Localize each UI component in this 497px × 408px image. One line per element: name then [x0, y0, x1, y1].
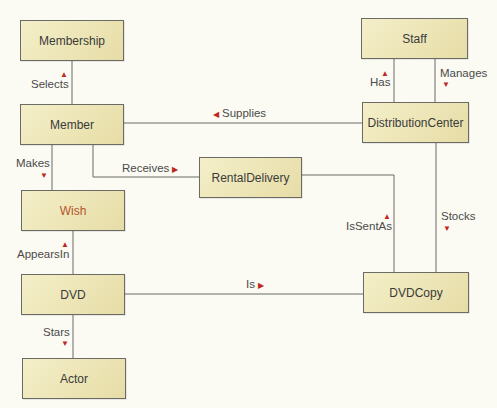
relationship-label-stars: Stars	[43, 326, 70, 338]
entity-label: Wish	[60, 204, 87, 218]
entity-label: Staff	[402, 32, 426, 46]
relationship-label-stocks: Stocks	[441, 210, 476, 222]
entity-rentaldelivery[interactable]: RentalDelivery	[199, 157, 302, 198]
relationship-label-has: Has	[370, 76, 390, 88]
entity-membership[interactable]: Membership	[20, 20, 124, 61]
arrow-down-icon: ▼	[442, 81, 450, 89]
entity-member[interactable]: Member	[20, 104, 124, 145]
relationship-label-appearsin: AppearsIn	[17, 248, 69, 260]
entity-label: Actor	[60, 372, 88, 386]
entity-staff[interactable]: Staff	[361, 18, 468, 59]
arrow-left-icon: ◀	[213, 111, 219, 119]
entity-label: DVD	[60, 288, 85, 302]
entity-label: Membership	[39, 34, 105, 48]
relationship-label-supplies: Supplies	[222, 107, 266, 119]
relationship-label-selects: Selects	[31, 78, 69, 90]
entity-wish[interactable]: Wish	[21, 190, 125, 231]
entity-label: Member	[50, 118, 94, 132]
relationship-label-issentas: IsSentAs	[346, 220, 392, 232]
relationship-label-is: Is	[246, 278, 255, 290]
er-diagram: Membership Member Wish DVD Actor Staff D…	[0, 0, 497, 408]
arrow-down-icon: ▼	[443, 225, 451, 233]
entity-label: RentalDelivery	[211, 171, 289, 185]
entity-distributioncenter[interactable]: DistributionCenter	[362, 102, 469, 143]
arrow-right-icon: ▶	[172, 166, 178, 174]
arrow-right-icon: ▶	[258, 282, 264, 290]
entity-actor[interactable]: Actor	[22, 358, 126, 399]
arrow-down-icon: ▼	[40, 172, 48, 180]
entity-dvdcopy[interactable]: DVDCopy	[363, 272, 469, 313]
entity-dvd[interactable]: DVD	[21, 274, 125, 315]
relationship-label-receives: Receives	[122, 162, 169, 174]
entity-label: DVDCopy	[389, 286, 442, 300]
relationship-label-manages: Manages	[440, 67, 487, 79]
entity-label: DistributionCenter	[367, 116, 463, 130]
arrow-down-icon: ▼	[61, 340, 69, 348]
relationship-label-makes: Makes	[16, 157, 50, 169]
